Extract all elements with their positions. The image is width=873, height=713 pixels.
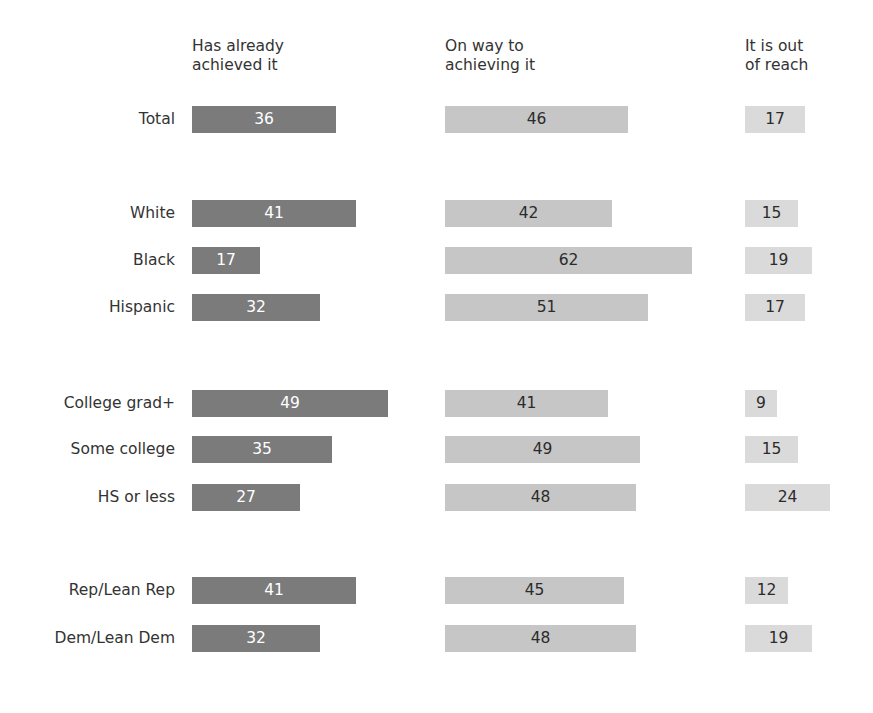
bar-segment: 41 [445, 390, 608, 417]
bar-value-label: 24 [745, 484, 830, 511]
bar-value-label: 49 [445, 436, 640, 463]
bar-value-label: 42 [445, 200, 612, 227]
bar-value-label: 32 [192, 294, 320, 321]
bar-value-label: 45 [445, 577, 624, 604]
row-label: Black [0, 245, 175, 275]
row-label: HS or less [0, 482, 175, 512]
bar-segment: 51 [445, 294, 648, 321]
bar-value-label: 12 [745, 577, 788, 604]
bar-segment: 27 [192, 484, 300, 511]
chart-row: Dem/Lean Dem324819 [0, 623, 873, 653]
bar-segment: 32 [192, 294, 320, 321]
bar-value-label: 49 [192, 390, 388, 417]
bar-value-label: 36 [192, 106, 336, 133]
chart-row: Some college354915 [0, 434, 873, 464]
bar-segment: 45 [445, 577, 624, 604]
bar-segment: 15 [745, 436, 798, 463]
row-label: White [0, 198, 175, 228]
bar-segment: 41 [192, 577, 356, 604]
bar-value-label: 17 [745, 106, 805, 133]
bar-value-label: 46 [445, 106, 628, 133]
bar-segment: 15 [745, 200, 798, 227]
bar-value-label: 27 [192, 484, 300, 511]
column-header-has-already-achieved-it: Has already achieved it [192, 37, 284, 75]
bar-segment: 19 [745, 625, 812, 652]
bar-value-label: 51 [445, 294, 648, 321]
bar-segment: 49 [192, 390, 388, 417]
bar-segment: 41 [192, 200, 356, 227]
bar-segment: 48 [445, 484, 636, 511]
chart-row: HS or less274824 [0, 482, 873, 512]
bar-segment: 48 [445, 625, 636, 652]
bar-value-label: 15 [745, 200, 798, 227]
bar-value-label: 41 [192, 200, 356, 227]
chart-row: Total364617 [0, 104, 873, 134]
bar-value-label: 17 [745, 294, 805, 321]
bar-value-label: 35 [192, 436, 332, 463]
bar-segment: 17 [745, 294, 805, 321]
column-header-on-way-to-achieving-it: On way to achieving it [445, 37, 535, 75]
bar-segment: 24 [745, 484, 830, 511]
bar-segment: 35 [192, 436, 332, 463]
bar-segment: 49 [445, 436, 640, 463]
bar-segment: 17 [745, 106, 805, 133]
bar-segment: 46 [445, 106, 628, 133]
bar-value-label: 9 [745, 390, 777, 417]
bar-segment: 42 [445, 200, 612, 227]
bar-segment: 9 [745, 390, 777, 417]
column-header-it-is-out-of-reach: It is out of reach [745, 37, 808, 75]
bar-segment: 19 [745, 247, 812, 274]
chart-row: Black176219 [0, 245, 873, 275]
row-label: Dem/Lean Dem [0, 623, 175, 653]
bar-value-label: 41 [445, 390, 608, 417]
bar-segment: 36 [192, 106, 336, 133]
bar-segment: 17 [192, 247, 260, 274]
bar-segment: 32 [192, 625, 320, 652]
bar-value-label: 48 [445, 625, 636, 652]
bar-segment: 12 [745, 577, 788, 604]
bar-value-label: 15 [745, 436, 798, 463]
bar-value-label: 19 [745, 247, 812, 274]
chart-row: Hispanic325117 [0, 292, 873, 322]
row-label: Some college [0, 434, 175, 464]
row-label: Hispanic [0, 292, 175, 322]
chart-row: College grad+49419 [0, 388, 873, 418]
chart-row: Rep/Lean Rep414512 [0, 575, 873, 605]
row-label: College grad+ [0, 388, 175, 418]
row-label: Total [0, 104, 175, 134]
bar-value-label: 48 [445, 484, 636, 511]
bar-segment: 62 [445, 247, 692, 274]
bar-value-label: 17 [192, 247, 260, 274]
bar-value-label: 19 [745, 625, 812, 652]
bar-value-label: 32 [192, 625, 320, 652]
bar-value-label: 62 [445, 247, 692, 274]
row-label: Rep/Lean Rep [0, 575, 175, 605]
bar-value-label: 41 [192, 577, 356, 604]
chart-row: White414215 [0, 198, 873, 228]
bar-chart: Has already achieved it On way to achiev… [0, 0, 873, 713]
